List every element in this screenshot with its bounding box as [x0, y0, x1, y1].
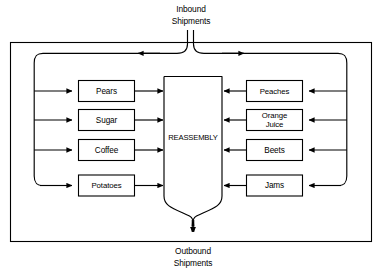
node-box[interactable]: Coffee [79, 140, 135, 161]
node-box-label: Orange [262, 111, 287, 120]
left-node-group: Pears Sugar Coffee Potatoes [79, 81, 135, 197]
node-box-label: Jams [265, 181, 284, 190]
node-box-label: Coffee [95, 146, 119, 155]
node-box-label: Sugar [96, 116, 118, 125]
node-box[interactable]: Beets [247, 140, 303, 161]
outbound-caption: Outbound Shipments [174, 246, 213, 268]
left-feed-arrows [34, 91, 72, 186]
inbound-caption-line1: Inbound [176, 4, 206, 14]
node-box-label: Potatoes [92, 181, 122, 190]
node-box-label: Beets [264, 146, 284, 155]
reassembly-node: REASSEMBLY [164, 77, 222, 227]
outer-boundary-frame [11, 43, 372, 242]
diagram-canvas: REASSEMBLY Pears Sugar Coffee Potatoe [0, 0, 381, 273]
reassembly-label: REASSEMBLY [168, 133, 218, 142]
right-feed-arrows [309, 91, 347, 186]
node-box-label-line2: Juice [266, 120, 284, 129]
inbound-shipments-connector [107, 30, 276, 53]
node-box[interactable]: Potatoes [79, 175, 135, 196]
flow-diagram-svg: REASSEMBLY Pears Sugar Coffee Potatoe [0, 0, 381, 273]
left-output-arrows [135, 91, 163, 186]
outbound-caption-line1: Outbound [175, 246, 211, 256]
outbound-caption-line2: Shipments [174, 258, 213, 268]
node-box-label: Pears [96, 87, 117, 96]
node-box-label: Peaches [260, 87, 290, 96]
right-output-arrows [224, 91, 246, 186]
right-node-group: Peaches Orange Juice Beets Jams [247, 81, 303, 197]
node-box[interactable]: Peaches [247, 81, 303, 102]
inbound-caption-line2: Shipments [172, 16, 211, 26]
inbound-caption: Inbound Shipments [172, 4, 211, 26]
node-box[interactable]: Orange Juice [247, 110, 303, 131]
node-box[interactable]: Jams [247, 175, 303, 196]
node-box[interactable]: Sugar [79, 110, 135, 131]
node-box[interactable]: Pears [79, 81, 135, 102]
